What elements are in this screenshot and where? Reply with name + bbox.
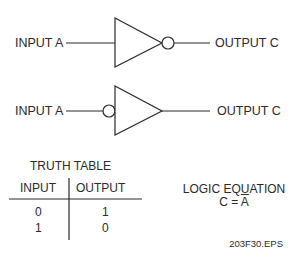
truth-table-header-output: OUTPUT	[76, 181, 125, 195]
equation-rhs-negated: A	[241, 195, 249, 209]
logic-equation-formula: C = A	[174, 196, 293, 209]
gate1-output-label: OUTPUT C	[215, 36, 279, 50]
gate2-input-bubble	[103, 105, 115, 117]
gate1-triangle	[115, 18, 162, 67]
truth-table-cell: 0	[102, 221, 109, 235]
truth-table-title: TRUTH TABLE	[30, 159, 111, 173]
truth-table-cell: 1	[102, 205, 109, 219]
gate1-input-label: INPUT A	[15, 36, 63, 50]
truth-table-cell: 0	[35, 205, 42, 219]
truth-table-cell: 1	[35, 221, 42, 235]
truth-table-header-input: INPUT	[20, 181, 56, 195]
equation-lhs: C =	[219, 195, 241, 209]
gate1-output-bubble	[162, 37, 174, 49]
figure-id: 203F30.EPS	[229, 238, 283, 249]
gate2-triangle	[115, 86, 162, 135]
logic-equation: LOGIC EQUATION C = A	[174, 183, 293, 209]
gate2-input-label: INPUT A	[15, 104, 63, 118]
gate2-output-label: OUTPUT C	[217, 104, 281, 118]
